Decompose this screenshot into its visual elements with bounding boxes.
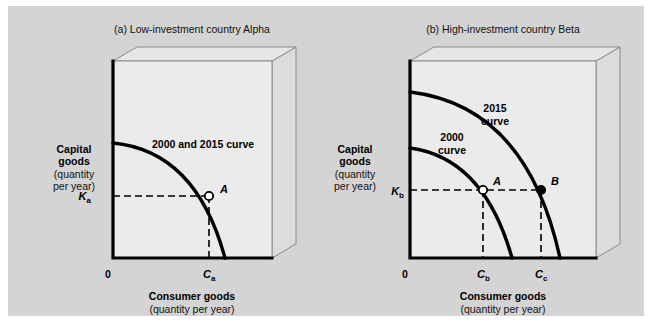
panel-a-xlabel-sub: (quantity per year): [149, 303, 234, 315]
panel-b-box-side-face: [596, 47, 620, 258]
panel-a-ytick-Ka-sub: a: [87, 196, 92, 205]
figure-container: (a) Low-investment country Alpha A 2000 …: [0, 0, 652, 336]
panel-a: (a) Low-investment country Alpha A 2000 …: [53, 23, 296, 315]
panel-b-curve-2000-label-line2: curve: [438, 144, 466, 156]
panel-a-point-A-label: A: [219, 183, 228, 195]
panel-b-point-B-marker: [537, 186, 545, 194]
panel-b-box-top-face: [410, 47, 620, 61]
panel-b-ylabel-line2: goods: [339, 155, 371, 167]
panel-a-xtick-Ca: Ca: [203, 268, 216, 283]
panel-b-xtick-Cb: Cb: [477, 268, 490, 283]
panel-a-ylabel-line2: goods: [58, 155, 90, 167]
panel-b-curve-2015-label-line2: curve: [481, 115, 509, 127]
panel-a-point-A-marker: [205, 192, 213, 200]
panel-a-xlabel: Consumer goods: [149, 290, 235, 302]
panel-b-xtick-Cb-sub: b: [485, 274, 490, 283]
panel-b-ylabel-sub2: per year): [334, 180, 376, 192]
panel-a-ylabel-sub1: (quantity: [54, 168, 95, 180]
panel-a-box-side-face: [272, 47, 296, 258]
panel-b-origin-label: 0: [402, 268, 408, 280]
panel-b-ytick-Kb-sub: b: [399, 191, 404, 200]
panel-b-point-A-marker: [479, 186, 487, 194]
panel-b-point-B-label: B: [551, 175, 559, 187]
panel-a-plot-area: [113, 61, 272, 258]
diagram-svg: (a) Low-investment country Alpha A 2000 …: [0, 0, 652, 336]
panel-b-title: (b) High-investment country Beta: [426, 23, 580, 35]
panel-b-xtick-Cc-sub: c: [543, 274, 548, 283]
panel-a-ylabel-sub2: per year): [53, 180, 95, 192]
panel-b-point-A-label: A: [492, 175, 501, 187]
panel-a-xtick-Ca-sub: a: [211, 274, 216, 283]
panel-b-xlabel-sub: (quantity per year): [460, 303, 545, 315]
panel-a-ytick-Ka: Ka: [79, 190, 92, 205]
panel-b: (b) High-investment country Beta A B 201…: [334, 23, 620, 315]
panel-a-title: (a) Low-investment country Alpha: [114, 23, 270, 35]
panel-a-box-top-face: [113, 47, 296, 61]
panel-b-ytick-Kb: Kb: [391, 185, 404, 200]
panel-a-origin-label: 0: [105, 268, 111, 280]
panel-a-curve-label: 2000 and 2015 curve: [152, 138, 254, 150]
panel-b-xlabel: Consumer goods: [460, 290, 546, 302]
panel-b-curve-2000-label-line1: 2000: [440, 131, 464, 143]
panel-b-xtick-Cc: Cc: [535, 268, 548, 283]
panel-b-ylabel-line1: Capital: [337, 143, 372, 155]
panel-a-ylabel-line1: Capital: [56, 143, 91, 155]
panel-b-curve-2015-label-line1: 2015: [483, 102, 507, 114]
panel-b-ylabel-sub1: (quantity: [335, 168, 376, 180]
